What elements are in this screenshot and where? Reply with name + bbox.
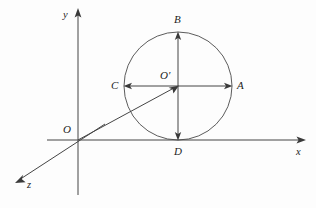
- point-label-d: D: [174, 146, 182, 157]
- geometry-figure: y x z O O′ A B C D: [0, 0, 316, 208]
- z-axis-arrowhead: [15, 175, 26, 183]
- origin-to-center-line: [78, 89, 173, 141]
- axis-label-x: x: [296, 147, 301, 158]
- y-axis: [75, 8, 82, 195]
- point-label-o-prime: O′: [160, 70, 170, 81]
- origin-to-center-ray: [78, 86, 179, 141]
- point-label-o: O: [63, 124, 71, 135]
- axis-label-z: z: [27, 180, 31, 191]
- geometry-canvas: [0, 0, 316, 208]
- point-label-b: B: [174, 14, 181, 25]
- point-label-a: A: [237, 80, 244, 91]
- point-label-c: C: [111, 80, 118, 91]
- axis-label-y: y: [63, 10, 68, 21]
